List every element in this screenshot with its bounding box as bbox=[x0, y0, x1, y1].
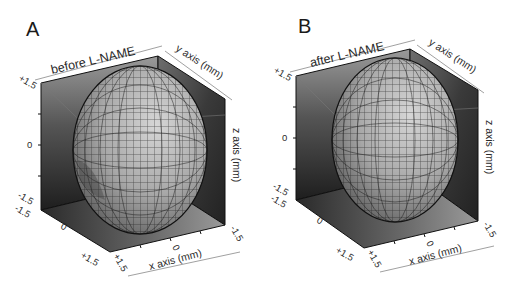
x-tick-3-b: -1.5 bbox=[481, 220, 499, 240]
y-tick-2-b: 0 bbox=[315, 214, 325, 226]
x-tick-3-a: -1.5 bbox=[228, 224, 246, 244]
x-tick-1-b: +1.5 bbox=[365, 248, 384, 270]
panel-b: B after L-NAME y axis (mm) z axis (mm) x… bbox=[269, 15, 499, 272]
panel-a: A before L-NA bbox=[13, 18, 246, 276]
panel-letter-b: B bbox=[298, 15, 311, 37]
sphere-surface-b bbox=[332, 58, 458, 222]
z-tick-top-b: +1.5 bbox=[272, 64, 294, 83]
z-tick-mid-b: 0 bbox=[282, 132, 287, 143]
x-axis-label-b: x axis (mm) bbox=[407, 241, 463, 267]
z-axis-label-a: z axis (mm) bbox=[231, 128, 243, 182]
z-tick-top-a: +1.5 bbox=[17, 72, 39, 91]
z-axis-label-b: z axis (mm) bbox=[484, 120, 496, 174]
x-tick-1-a: +1.5 bbox=[111, 252, 130, 274]
y-tick-3-a: +1.5 bbox=[79, 249, 101, 268]
sphere-surface-a bbox=[73, 66, 207, 234]
z-tick-mid-a: 0 bbox=[27, 139, 32, 150]
panel-letter-a: A bbox=[26, 18, 40, 40]
y-tick-3-b: +1.5 bbox=[334, 244, 356, 263]
